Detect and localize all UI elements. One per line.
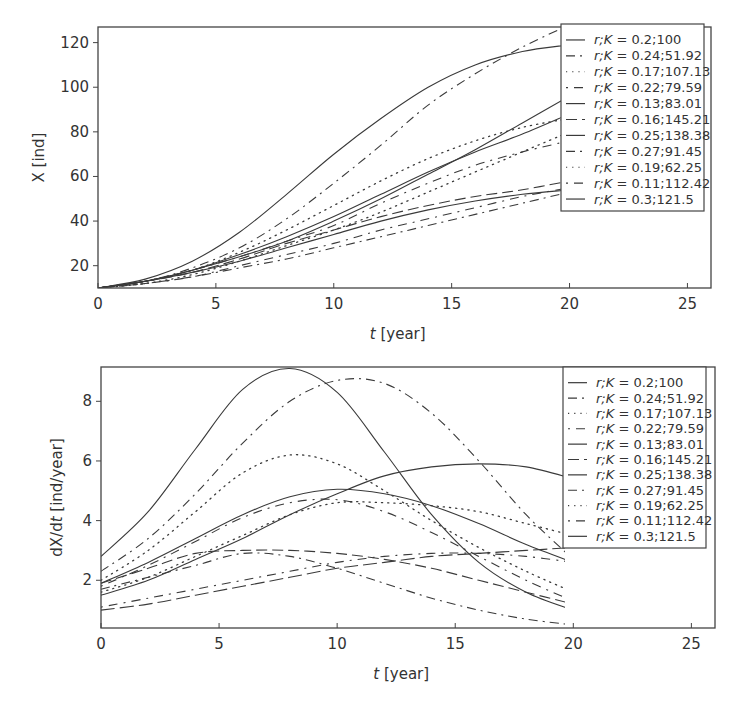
y-tick-label: 80 — [70, 123, 89, 141]
series-line — [98, 45, 570, 288]
x-tick-label: 15 — [446, 635, 465, 653]
series-line — [98, 25, 570, 288]
legend-label: r;K = 0.17;107.13 — [594, 64, 710, 79]
legend-label: r;K = 0.3;121.5 — [596, 529, 696, 544]
legend-label: r;K = 0.22;79.59 — [594, 80, 702, 95]
y-tick-label: 4 — [82, 512, 92, 530]
legend-label: r;K = 0.16;145.21 — [596, 452, 712, 467]
legend-label: r;K = 0.27;91.45 — [594, 144, 702, 159]
series-line — [101, 379, 573, 572]
x-tick-label: 10 — [324, 295, 343, 313]
legend-label: r;K = 0.19;62.25 — [594, 160, 702, 175]
series-line — [98, 190, 570, 288]
legend-label: r;K = 0.13;83.01 — [594, 96, 702, 111]
legend-label: r;K = 0.11;112.42 — [594, 176, 710, 191]
series-group — [98, 25, 570, 288]
legend-label: r;K = 0.27;91.45 — [596, 483, 704, 498]
x-tick-label: 20 — [564, 635, 583, 653]
y-tick-label: 20 — [70, 257, 89, 275]
legend-label: r;K = 0.17;107.13 — [596, 406, 712, 421]
series-line — [98, 132, 570, 288]
series-line — [101, 553, 573, 625]
x-tick-label: 0 — [96, 635, 106, 653]
y-axis-label: X [ind] — [30, 133, 48, 183]
y-tick-label: 40 — [70, 212, 89, 230]
series-line — [98, 188, 570, 288]
x-tick-label: 10 — [328, 635, 347, 653]
legend-label: r;K = 0.16;145.21 — [594, 112, 710, 127]
top-chart-x-vs-t: 051015202520406080100120t [year]X [ind]r… — [30, 24, 711, 343]
series-line — [98, 141, 570, 288]
x-axis-label: t [year] — [373, 665, 429, 683]
series-line — [98, 192, 570, 288]
y-axis-label: dX/dt [ind/year] — [48, 438, 66, 556]
legend-label: r;K = 0.11;112.42 — [596, 513, 712, 528]
y-tick-label: 60 — [70, 167, 89, 185]
series-line — [101, 464, 573, 595]
legend-label: r;K = 0.24;51.92 — [594, 48, 702, 63]
series-group — [101, 368, 573, 625]
bottom-chart-dxdt-vs-t: 05101520252468t [year]dX/dt [ind/year]r;… — [48, 367, 715, 683]
x-tick-label: 25 — [678, 295, 697, 313]
series-line — [101, 489, 573, 583]
series-line — [98, 96, 570, 288]
series-line — [98, 114, 570, 288]
legend-label: r;K = 0.25;138.38 — [594, 128, 710, 143]
y-tick-label: 2 — [82, 571, 92, 589]
legend-label: r;K = 0.2;100 — [596, 375, 683, 390]
series-line — [98, 119, 570, 289]
legend-label: r;K = 0.2;100 — [594, 32, 681, 47]
legend: r;K = 0.2;100r;K = 0.24;51.92r;K = 0.17;… — [563, 367, 712, 548]
y-tick-label: 8 — [82, 392, 92, 410]
y-tick-label: 6 — [82, 452, 92, 470]
legend-label: r;K = 0.22;79.59 — [596, 421, 704, 436]
x-tick-label: 0 — [93, 295, 103, 313]
series-line — [101, 455, 573, 592]
legend-label: r;K = 0.3;121.5 — [594, 192, 694, 207]
y-tick-label: 120 — [60, 34, 89, 52]
legend-label: r;K = 0.25;138.38 — [596, 467, 712, 482]
legend: r;K = 0.2;100r;K = 0.24;51.92r;K = 0.17;… — [561, 24, 710, 211]
x-tick-label: 5 — [211, 295, 221, 313]
x-tick-label: 20 — [560, 295, 579, 313]
figure: 051015202520406080100120t [year]X [ind]r… — [0, 0, 739, 708]
y-tick-label: 100 — [60, 78, 89, 96]
x-tick-label: 5 — [214, 635, 224, 653]
legend-label: r;K = 0.19;62.25 — [596, 498, 704, 513]
legend-label: r;K = 0.13;83.01 — [596, 437, 704, 452]
series-line — [101, 553, 573, 607]
x-axis-label: t [year] — [370, 325, 426, 343]
legend-label: r;K = 0.24;51.92 — [596, 391, 704, 406]
series-line — [101, 550, 573, 604]
x-tick-label: 15 — [442, 295, 461, 313]
x-tick-label: 25 — [682, 635, 701, 653]
